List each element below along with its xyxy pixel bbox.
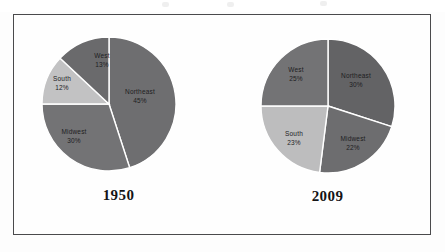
year-label-2009: 2009	[223, 188, 432, 205]
slice-label-midwest-1950: Midwest 30%	[53, 128, 95, 145]
slice-pct-text: 25%	[275, 75, 317, 84]
slice-label-text: Midwest	[340, 135, 365, 142]
slice-pct-text: 12%	[41, 84, 83, 93]
slice-label-northeast-2009: Northeast 30%	[334, 72, 378, 89]
year-label-1950: 1950	[14, 187, 223, 204]
slice-label-text: Northeast	[341, 72, 371, 79]
slice-label-text: South	[53, 75, 71, 82]
pie-2009: Northeast 30% Midwest 22% South 23% West…	[260, 38, 396, 174]
slice-pct-text: 22%	[331, 144, 375, 153]
slice-label-text: Northeast	[125, 88, 155, 95]
slice-label-northeast-1950: Northeast 45%	[119, 88, 161, 105]
scan-artifact-band	[0, 0, 445, 12]
slice-label-south-1950: South 12%	[41, 75, 83, 92]
slice-label-midwest-2009: Midwest 22%	[331, 135, 375, 152]
slice-pct-text: 30%	[334, 81, 378, 90]
pie-chart-panel-2009: Northeast 30% Midwest 22% South 23% West…	[223, 15, 432, 236]
figure-page: Northeast 45% Midwest 30% South 12% West…	[0, 0, 445, 252]
pie-2009-svg	[260, 38, 396, 174]
slice-label-text: West	[288, 66, 304, 73]
slice-label-west-2009: West 25%	[275, 66, 317, 83]
slice-pct-text: 30%	[53, 137, 95, 146]
pie-1950: Northeast 45% Midwest 30% South 12% West…	[41, 36, 177, 172]
slice-pct-text: 23%	[273, 139, 315, 148]
slice-pct-text: 45%	[119, 97, 161, 106]
pie-chart-panel-1950: Northeast 45% Midwest 30% South 12% West…	[14, 15, 223, 236]
slice-label-west-1950: West 13%	[81, 52, 123, 69]
slice-label-text: South	[285, 130, 303, 137]
figure-frame: Northeast 45% Midwest 30% South 12% West…	[13, 14, 431, 235]
slice-pct-text: 13%	[81, 61, 123, 70]
pie-2009-slices	[261, 39, 395, 173]
slice-label-text: West	[94, 52, 110, 59]
slice-label-south-2009: South 23%	[273, 130, 315, 147]
slice-label-text: Midwest	[61, 128, 86, 135]
